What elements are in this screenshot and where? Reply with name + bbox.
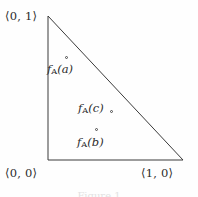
vertex-label-top-left: ⟨0, 1⟩ [5, 11, 37, 23]
point-label-c: fA(c) [78, 103, 104, 115]
point-c-argument: (c) [88, 101, 103, 115]
vertex-label-bottom-left: ⟨0, 0⟩ [5, 168, 37, 180]
figure-caption: Figure 1 [0, 190, 198, 197]
unit-simplex-triangle [48, 16, 183, 160]
point-a-argument: (a) [57, 62, 73, 76]
simplex-figure: ⟨0, 1⟩ ⟨0, 0⟩ ⟨1, 0⟩ fA(a) fA(c) fA(b) F… [0, 0, 198, 197]
vertex-label-bottom-right: ⟨1, 0⟩ [141, 168, 173, 180]
point-label-a: fA(a) [47, 64, 73, 76]
point-b-argument: (b) [87, 135, 103, 149]
point-label-b: fA(b) [77, 137, 104, 149]
